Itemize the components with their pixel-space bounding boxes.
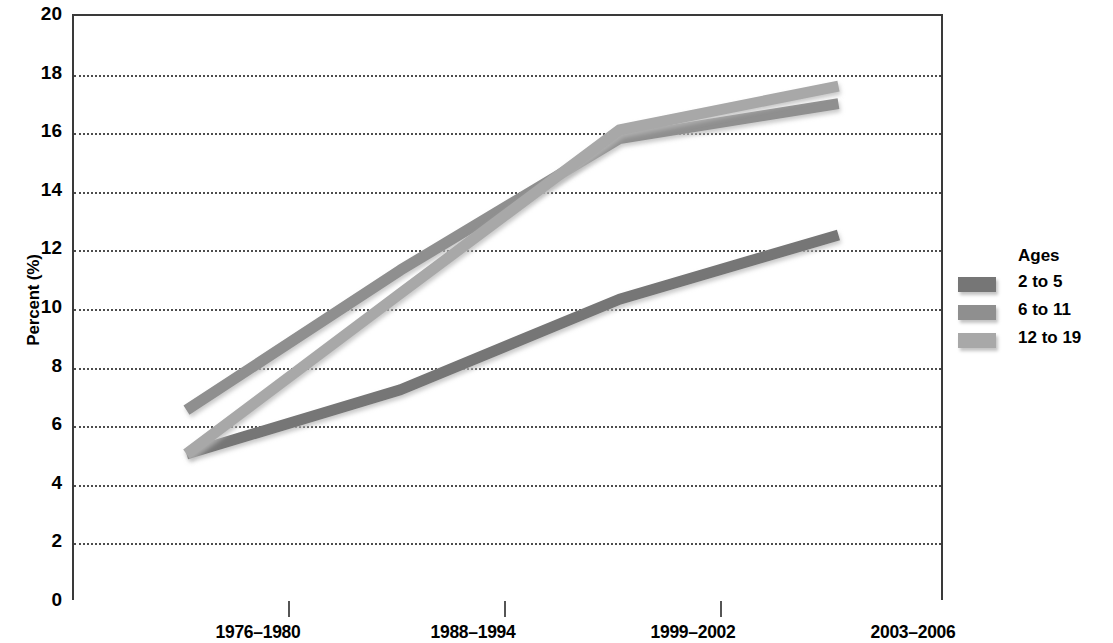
y-axis-tick-label: 8 (18, 356, 62, 375)
x-axis-tick (288, 601, 290, 617)
y-axis-tick-labels: 20181614121086420 (0, 0, 62, 643)
line-chart: Percent (%) 20181614121086420 1976–19801… (0, 0, 1113, 643)
y-axis-tick-label: 6 (18, 414, 62, 433)
legend-label: 2 to 5 (1018, 272, 1062, 292)
y-axis-tick-label: 20 (18, 4, 62, 23)
y-axis-tick-label: 2 (18, 531, 62, 550)
x-axis-tick (504, 601, 506, 617)
legend-label: 6 to 11 (1018, 300, 1071, 320)
y-axis-tick-label: 10 (18, 297, 62, 316)
legend-label: 12 to 19 (1018, 328, 1081, 348)
y-axis-tick-label: 16 (18, 121, 62, 140)
legend-swatch (958, 305, 996, 320)
legend-swatch (958, 333, 996, 348)
x-axis-tick-label: 1976–1980 (216, 622, 301, 643)
y-axis-tick-label: 14 (18, 180, 62, 199)
y-axis-tick-label: 0 (18, 590, 62, 609)
x-axis-tick-label: 1988–1994 (431, 622, 516, 643)
x-axis-tick (720, 601, 722, 617)
y-axis-tick-label: 12 (18, 238, 62, 257)
legend-swatch (958, 277, 996, 292)
x-axis-tick-label: 2003–2006 (871, 622, 956, 643)
y-axis-tick-label: 18 (18, 63, 62, 82)
series-lines (74, 16, 941, 600)
series-line (186, 86, 838, 454)
legend-title: Ages (1018, 246, 1060, 266)
y-axis-tick-label: 4 (18, 473, 62, 492)
series-line (186, 104, 838, 411)
x-axis-tick-label: 1999–2002 (651, 622, 736, 643)
plot-area (72, 14, 943, 600)
